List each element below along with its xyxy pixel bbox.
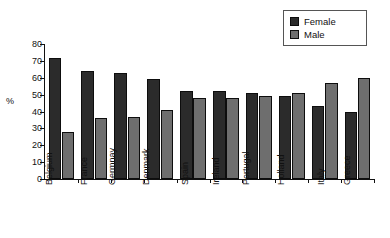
bar-group — [177, 44, 210, 179]
bar-male-ireland — [226, 98, 239, 179]
legend-label-female: Female — [304, 17, 336, 27]
y-axis-tick-label: 70 — [22, 56, 42, 65]
x-label-slot: Greece — [341, 183, 374, 238]
bar-male-italy — [325, 83, 338, 179]
bar-group — [308, 44, 341, 179]
x-label-slot: Denmark — [144, 183, 177, 238]
legend-label-male: Male — [304, 30, 325, 40]
x-axis-category-label: France — [80, 157, 89, 185]
y-axis-tick-label: 0 — [22, 175, 42, 184]
y-axis-tick-mark — [40, 61, 44, 62]
legend-swatch-female-icon — [290, 17, 299, 26]
x-axis-tick-mark — [210, 179, 211, 183]
y-axis-tick-mark — [40, 145, 44, 146]
y-axis-title: % — [6, 96, 14, 106]
legend-item-female: Female — [290, 15, 361, 28]
x-label-slot: Germnay — [111, 183, 144, 238]
y-axis-tick-label: 10 — [22, 158, 42, 167]
y-axis-tick-mark — [40, 95, 44, 96]
x-axis-category-label: Holland — [276, 154, 285, 185]
x-axis-tick-mark — [78, 179, 79, 183]
x-label-slot: Italy — [308, 183, 341, 238]
x-axis-category-label: Spain — [182, 162, 191, 185]
y-axis-tick-label: 50 — [22, 90, 42, 99]
x-label-slot: Holland — [275, 183, 308, 238]
y-axis-tick-label: 20 — [22, 141, 42, 150]
bar-male-france — [95, 118, 108, 179]
legend-item-male: Male — [290, 28, 361, 41]
legend-swatch-male-icon — [290, 30, 299, 39]
x-axis-tick-mark — [275, 179, 276, 183]
y-axis-tick-label: 80 — [22, 40, 42, 49]
x-axis-category-label: Belgium — [45, 152, 54, 185]
x-axis-tick-mark — [341, 179, 342, 183]
y-axis-tick-label: 30 — [22, 124, 42, 133]
x-axis-tick-mark — [308, 179, 309, 183]
bar-male-spain — [193, 98, 206, 179]
x-axis-tick-mark — [374, 179, 375, 183]
x-axis-category-labels: BelgiumFranceGermnayDenmarkSpainIrelandP… — [45, 183, 374, 238]
x-axis-category-label: Ireland — [212, 157, 221, 185]
x-axis-tick-mark — [242, 179, 243, 183]
x-label-slot: France — [78, 183, 111, 238]
x-label-slot: Belgium — [45, 183, 78, 238]
x-axis-category-label: Greece — [343, 155, 352, 185]
x-axis-tick-mark — [144, 179, 145, 183]
x-axis-tick-mark — [111, 179, 112, 183]
bar-male-denmark — [161, 110, 174, 179]
y-axis-tick-mark — [40, 179, 44, 180]
y-axis-tick-label: 40 — [22, 107, 42, 116]
y-axis-tick-mark — [40, 112, 44, 113]
y-axis-tick-mark — [40, 128, 44, 129]
x-axis-tick-mark — [177, 179, 178, 183]
y-axis-tick-labels: 01020304050607080 — [22, 38, 42, 184]
plot-area — [45, 44, 374, 179]
y-axis-tick-mark — [40, 162, 44, 163]
y-axis-tick-label: 60 — [22, 73, 42, 82]
bar-male-germnay — [128, 117, 141, 179]
x-label-slot: Spain — [177, 183, 210, 238]
x-label-slot: Portugal — [242, 183, 275, 238]
bar-chart: % 01020304050607080 BelgiumFranceGermnay… — [0, 0, 390, 238]
bar-male-belgium — [62, 132, 75, 179]
bar-male-portugal — [259, 96, 272, 179]
y-axis-tick-mark — [40, 78, 44, 79]
y-axis-tick-mark — [40, 44, 44, 45]
x-axis-category-label: Portugal — [242, 151, 251, 185]
bar-male-holland — [292, 93, 305, 179]
x-axis-category-label: Italy — [316, 168, 325, 185]
x-label-slot: Ireland — [210, 183, 243, 238]
bar-male-greece — [358, 78, 371, 179]
chart-legend: Female Male — [283, 10, 367, 46]
